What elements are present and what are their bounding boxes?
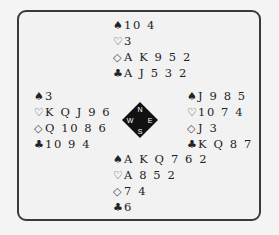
club-icon: ♣ <box>34 137 45 153</box>
spade-icon: ♠ <box>187 89 198 105</box>
west-hearts-cards: K Q J 9 6 <box>45 105 111 119</box>
north-spades-cards: 10 4 <box>124 18 156 32</box>
east-clubs: ♣K Q 8 7 <box>187 136 253 152</box>
spade-icon: ♠ <box>113 152 124 168</box>
south-clubs: ♣6 <box>113 199 208 215</box>
compass-east-label: E <box>148 117 153 124</box>
south-hearts: ♡A 8 5 2 <box>113 167 208 183</box>
west-clubs-cards: 10 9 4 <box>45 137 91 151</box>
west-spades-cards: 3 <box>45 89 54 103</box>
east-spades: ♠J 9 8 5 <box>187 88 253 104</box>
heart-icon: ♡ <box>34 105 45 121</box>
north-hearts-cards: 3 <box>124 34 133 48</box>
heart-icon: ♡ <box>113 168 124 184</box>
east-spades-cards: J 9 8 5 <box>198 89 247 103</box>
west-hearts: ♡K Q J 9 6 <box>34 104 111 120</box>
east-diamonds: ◇J 3 <box>187 120 253 136</box>
south-clubs-cards: 6 <box>124 200 133 214</box>
club-icon: ♣ <box>113 66 124 82</box>
compass-north-label: N <box>137 106 142 113</box>
spade-icon: ♠ <box>113 18 124 34</box>
south-hand: ♠A K Q 7 6 2 ♡A 8 5 2 ◇7 4 ♣6 <box>113 151 208 215</box>
south-diamonds-cards: 7 4 <box>124 184 147 198</box>
south-spades: ♠A K Q 7 6 2 <box>113 151 208 167</box>
east-hand: ♠J 9 8 5 ♡10 7 4 ◇J 3 ♣K Q 8 7 <box>187 88 253 152</box>
east-clubs-cards: K Q 8 7 <box>198 137 253 151</box>
compass-icon: N S W E <box>122 102 158 138</box>
heart-icon: ♡ <box>187 105 198 121</box>
south-spades-cards: A K Q 7 6 2 <box>124 152 208 166</box>
south-diamonds: ◇7 4 <box>113 183 208 199</box>
spade-icon: ♠ <box>34 89 45 105</box>
compass-south-label: S <box>138 128 143 135</box>
east-hearts: ♡10 7 4 <box>187 104 253 120</box>
compass-west-label: W <box>127 117 134 124</box>
west-clubs: ♣10 9 4 <box>34 136 111 152</box>
east-hearts-cards: 10 7 4 <box>198 105 244 119</box>
west-spades: ♠3 <box>34 88 111 104</box>
diamond-icon: ◇ <box>113 50 124 66</box>
north-diamonds: ◇A K 9 5 2 <box>113 49 192 65</box>
diamond-icon: ◇ <box>34 121 45 137</box>
west-hand: ♠3 ♡K Q J 9 6 ◇Q 10 8 6 ♣10 9 4 <box>34 88 111 152</box>
west-diamonds-cards: Q 10 8 6 <box>45 121 107 135</box>
diamond-icon: ◇ <box>113 184 124 200</box>
north-hearts: ♡3 <box>113 33 192 49</box>
heart-icon: ♡ <box>113 34 124 50</box>
south-hearts-cards: A 8 5 2 <box>124 168 176 182</box>
north-spades: ♠10 4 <box>113 17 192 33</box>
north-clubs-cards: A J 5 3 2 <box>124 66 188 80</box>
west-diamonds: ◇Q 10 8 6 <box>34 120 111 136</box>
north-clubs: ♣A J 5 3 2 <box>113 65 192 81</box>
north-hand: ♠10 4 ♡3 ◇A K 9 5 2 ♣A J 5 3 2 <box>113 17 192 81</box>
diamond-icon: ◇ <box>187 121 198 137</box>
club-icon: ♣ <box>113 200 124 216</box>
east-diamonds-cards: J 3 <box>198 121 218 135</box>
north-diamonds-cards: A K 9 5 2 <box>124 50 192 64</box>
